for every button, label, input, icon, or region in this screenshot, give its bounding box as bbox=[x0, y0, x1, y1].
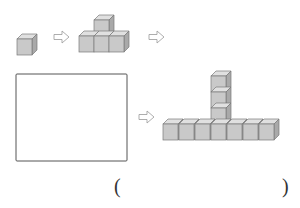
cube-pattern-diagram bbox=[0, 0, 300, 208]
arrow-icon bbox=[139, 111, 154, 123]
step1-single-cube bbox=[17, 34, 37, 55]
answer-close-paren: ) bbox=[282, 176, 289, 196]
arrow-icon bbox=[149, 31, 164, 43]
step2-four-cubes bbox=[79, 15, 129, 52]
answer-open-paren: ( bbox=[114, 176, 121, 196]
step4-ten-cubes bbox=[163, 71, 279, 140]
blank-answer-box[interactable] bbox=[16, 74, 127, 161]
arrow-icon bbox=[54, 31, 69, 43]
